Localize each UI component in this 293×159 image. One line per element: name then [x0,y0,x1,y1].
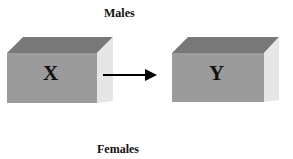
box-x-top-face [7,37,113,53]
box-x [7,37,113,103]
box-x-label: X [43,61,58,86]
arrow-head-icon [145,69,157,81]
females-label: Females [97,142,139,157]
box-y-top-face [172,37,279,53]
box-y-label: Y [209,61,224,86]
box-y [172,37,279,102]
